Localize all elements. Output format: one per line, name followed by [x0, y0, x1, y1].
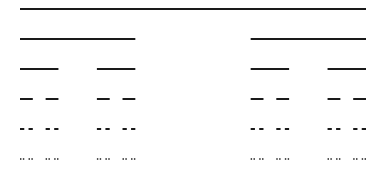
cantor-set-svg	[0, 0, 383, 178]
cantor-set-diagram	[0, 0, 383, 178]
